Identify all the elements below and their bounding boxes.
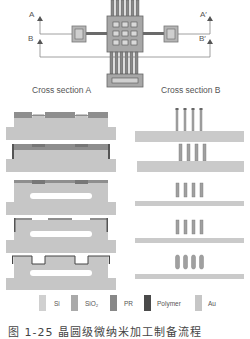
arrow-a-prime-icon: [207, 16, 213, 21]
legend-item-sio2: SiO₂: [71, 295, 99, 311]
legend-label-polymer: Polymer: [157, 300, 182, 308]
cross-section-a-steps: [6, 112, 116, 290]
section-b-step-5: [135, 255, 244, 279]
legend-label-si: Si: [54, 300, 60, 307]
section-b-step-3: [135, 183, 244, 206]
section-a-step-2: [6, 144, 116, 172]
legend-swatch-au: [195, 295, 202, 311]
legend-item-pr: PR: [110, 295, 133, 311]
section-a-step-5: [6, 256, 116, 290]
legend-swatch-pr: [110, 295, 117, 311]
right-pad: [164, 26, 178, 42]
label-a-prime: A′: [200, 10, 207, 19]
top-view: A B A′ B′: [28, 0, 213, 87]
section-a-step-3: [6, 180, 116, 215]
legend-label-au: Au: [208, 300, 216, 307]
label-b-prime: B′: [199, 34, 206, 43]
legend: Si SiO₂ PR Polymer Au: [39, 295, 216, 311]
figure-caption: 图 1-25 晶圆级微纳米加工制备流程: [8, 323, 202, 339]
legend-swatch-polymer: [144, 295, 151, 311]
label-a: A: [29, 10, 35, 19]
arrow-b-prime-icon: [207, 39, 213, 44]
top-fingers: [111, 0, 139, 17]
section-a-step-4: [6, 218, 116, 253]
section-b-step-4: [135, 220, 244, 243]
bottom-pad: [107, 74, 143, 87]
central-electrode-array: [107, 16, 143, 52]
arrow-a-icon: [37, 16, 43, 21]
legend-label-pr: PR: [124, 300, 133, 307]
label-b: B: [28, 34, 33, 43]
section-title-b: Cross section B: [161, 85, 221, 95]
cross-section-b-steps: [135, 108, 244, 279]
legend-swatch-sio2: [71, 295, 78, 311]
arrow-b-icon: [37, 39, 43, 44]
legend-item-au: Au: [195, 295, 216, 311]
bottom-fingers: [110, 52, 138, 74]
section-title-a: Cross section A: [32, 85, 91, 95]
section-a-step-1: [6, 112, 116, 140]
section-b-step-2: [137, 144, 244, 172]
legend-swatch-si: [39, 295, 46, 311]
left-pad: [72, 26, 86, 42]
legend-item-polymer: Polymer: [144, 295, 182, 311]
legend-item-si: Si: [39, 295, 60, 311]
legend-label-sio2: SiO₂: [85, 300, 99, 307]
section-b-step-1: [135, 108, 244, 142]
